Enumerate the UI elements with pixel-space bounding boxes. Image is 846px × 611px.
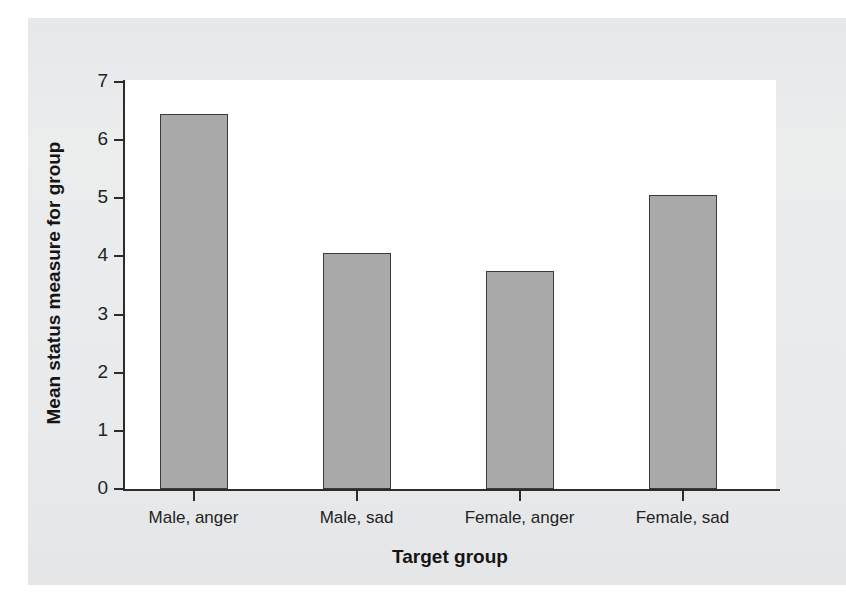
- bar: [323, 253, 391, 489]
- y-tick-label-wrap: 6: [80, 129, 108, 149]
- bar: [649, 195, 717, 489]
- y-tick-label: 5: [84, 187, 108, 206]
- y-tick-mark: [114, 255, 123, 257]
- x-tick-mark: [193, 491, 195, 501]
- y-tick-label: 1: [84, 420, 108, 439]
- x-tick-label: Male, sad: [320, 508, 394, 528]
- x-tick-mark: [682, 491, 684, 501]
- y-tick-label-wrap: 4: [80, 245, 108, 265]
- y-tick-label-wrap: 7: [80, 71, 108, 91]
- y-tick-mark: [114, 488, 123, 490]
- y-tick-label: 0: [84, 478, 108, 497]
- y-tick-label: 6: [84, 129, 108, 148]
- x-tick-mark: [356, 491, 358, 501]
- y-tick-mark: [114, 314, 123, 316]
- y-tick-label-wrap: 5: [80, 187, 108, 207]
- x-tick-label: Female, anger: [465, 508, 575, 528]
- x-tick-mark: [519, 491, 521, 501]
- y-tick-label-wrap: 0: [80, 478, 108, 498]
- y-axis-line: [123, 80, 125, 490]
- y-tick-mark: [114, 139, 123, 141]
- x-axis-title: Target group: [124, 546, 776, 568]
- y-axis-title: Mean status measure for group: [43, 133, 65, 433]
- y-tick-label: 2: [84, 362, 108, 381]
- bar: [160, 114, 228, 489]
- y-tick-label-wrap: 2: [80, 362, 108, 382]
- y-tick-label: 4: [84, 245, 108, 264]
- y-tick-label-wrap: 3: [80, 304, 108, 324]
- y-tick-mark: [114, 372, 123, 374]
- x-tick-label: Female, sad: [636, 508, 730, 528]
- y-tick-mark: [114, 430, 123, 432]
- y-tick-mark: [114, 81, 123, 83]
- y-tick-label: 7: [84, 71, 108, 90]
- bar-chart-figure: 01234567 Male, angerMale, sadFemale, ang…: [0, 0, 846, 611]
- y-tick-label-wrap: 1: [80, 420, 108, 440]
- x-tick-label: Male, anger: [149, 508, 239, 528]
- y-tick-label: 3: [84, 304, 108, 323]
- y-tick-mark: [114, 197, 123, 199]
- bar: [486, 271, 554, 489]
